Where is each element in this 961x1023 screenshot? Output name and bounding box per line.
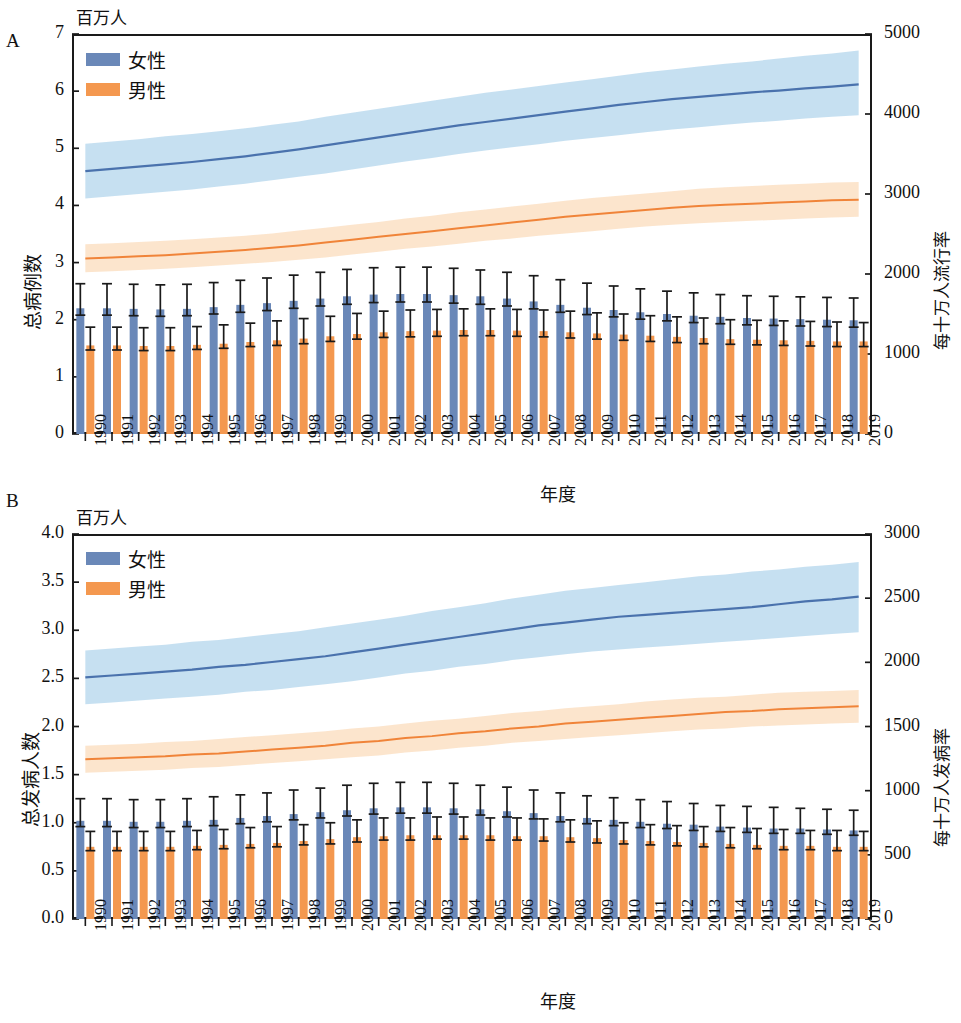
- x-axis-tick-label: 2017: [812, 414, 830, 446]
- x-axis-tick-label: 1995: [226, 414, 244, 446]
- x-axis-tick-label: 2015: [759, 414, 777, 446]
- x-axis-tick-label: 2018: [839, 414, 857, 446]
- x-axis-tick-label: 2008: [572, 899, 590, 931]
- y-axis-tick-label: 3: [12, 251, 64, 272]
- y2-axis-tick-label: 500: [884, 843, 911, 864]
- x-axis-tick-label: 2017: [812, 899, 830, 931]
- x-axis-tick-label: 1999: [332, 414, 350, 446]
- x-axis-tick-label: 1992: [146, 899, 164, 931]
- y-axis-tick-label: 0.5: [12, 859, 64, 880]
- x-axis-tick-label: 2013: [706, 414, 724, 446]
- x-axis-tick-label: 2012: [679, 899, 697, 931]
- y-axis-tick-label: 4: [12, 193, 64, 214]
- x-axis-tick-label: 2009: [599, 899, 617, 931]
- panel-b-graphics: [0, 487, 961, 1023]
- x-axis-tick-label: 2015: [759, 899, 777, 931]
- x-axis-tick-label: 2010: [626, 414, 644, 446]
- x-axis-tick-label: 2012: [679, 414, 697, 446]
- x-axis-tick-label: 2006: [519, 414, 537, 446]
- y-axis-tick-label: 1: [12, 365, 64, 386]
- x-axis-tick-label: 1990: [92, 899, 110, 931]
- x-axis-tick-label: 2003: [439, 414, 457, 446]
- y2-axis-tick-label: 4000: [884, 102, 920, 123]
- x-axis-tick-label: 1997: [279, 414, 297, 446]
- x-axis-tick-label: 1996: [252, 414, 270, 446]
- x-axis-tick-label: 2004: [466, 414, 484, 446]
- x-axis-tick-label: 2006: [519, 899, 537, 931]
- x-axis-tick-label: 2001: [386, 899, 404, 931]
- x-axis-tick-label: 1998: [306, 414, 324, 446]
- y2-axis-tick-label: 2000: [884, 650, 920, 671]
- x-axis-tick-label: 2018: [839, 899, 857, 931]
- y2-axis-tick-label: 2000: [884, 262, 920, 283]
- x-axis-tick-label: 2016: [786, 899, 804, 931]
- x-axis-tick-label: 2004: [466, 899, 484, 931]
- y-axis-tick-label: 3.0: [12, 618, 64, 639]
- y-axis-tick-label: 0: [12, 422, 64, 443]
- x-axis-tick-label: 1997: [279, 899, 297, 931]
- x-axis-tick-label: 1991: [119, 414, 137, 446]
- y-axis-tick-label: 1.5: [12, 763, 64, 784]
- x-axis-tick-label: 1994: [199, 414, 217, 446]
- x-axis-tick-label: 1990: [92, 414, 110, 446]
- x-axis-tick-label: 2001: [386, 414, 404, 446]
- y2-axis-tick-label: 3000: [884, 182, 920, 203]
- y2-axis-tick-label: 1000: [884, 779, 920, 800]
- x-axis-tick-label: 2003: [439, 899, 457, 931]
- y2-axis-tick-label: 1500: [884, 715, 920, 736]
- x-axis-tick-label: 2000: [359, 899, 377, 931]
- x-axis-tick-label: 2000: [359, 414, 377, 446]
- y-axis-tick-label: 6: [12, 79, 64, 100]
- y2-axis-tick-label: 1000: [884, 342, 920, 363]
- y-axis-tick-label: 7: [12, 22, 64, 43]
- x-axis-tick-label: 2011: [652, 900, 670, 931]
- x-axis-tick-label: 1995: [226, 899, 244, 931]
- x-axis-tick-label: 1991: [119, 899, 137, 931]
- x-axis-tick-label: 2002: [412, 899, 430, 931]
- x-axis-tick-label: 1996: [252, 899, 270, 931]
- y-axis-tick-label: 0.0: [12, 907, 64, 928]
- x-axis-tick-label: 1993: [172, 414, 190, 446]
- y-axis-tick-label: 2.5: [12, 666, 64, 687]
- y-axis-tick-label: 1.0: [12, 811, 64, 832]
- x-axis-tick-label: 2005: [492, 899, 510, 931]
- panel-b: B 百万人 总发病人数 每十万人发病率 年度 女性 男性 0.00.51.01.…: [0, 487, 961, 1023]
- y2-axis-tick-label: 3000: [884, 522, 920, 543]
- x-axis-tick-label: 2019: [866, 899, 884, 931]
- y-axis-tick-label: 4.0: [12, 522, 64, 543]
- y-axis-tick-label: 3.5: [12, 570, 64, 591]
- y2-axis-tick-label: 2500: [884, 586, 920, 607]
- x-axis-tick-label: 2014: [732, 414, 750, 446]
- x-axis-tick-label: 1993: [172, 899, 190, 931]
- x-axis-tick-label: 1998: [306, 899, 324, 931]
- x-axis-tick-label: 2010: [626, 899, 644, 931]
- x-axis-tick-label: 1994: [199, 899, 217, 931]
- x-axis-tick-label: 2016: [786, 414, 804, 446]
- x-axis-tick-label: 1992: [146, 414, 164, 446]
- x-axis-tick-label: 1999: [332, 899, 350, 931]
- y2-axis-tick-label: 0: [884, 422, 893, 443]
- y-axis-tick-label: 2: [12, 308, 64, 329]
- y-axis-tick-label: 5: [12, 136, 64, 157]
- x-axis-tick-label: 2007: [546, 414, 564, 446]
- x-axis-tick-label: 2014: [732, 899, 750, 931]
- x-axis-tick-label: 2005: [492, 414, 510, 446]
- x-axis-tick-label: 2007: [546, 899, 564, 931]
- x-axis-tick-label: 2011: [652, 415, 670, 446]
- x-axis-tick-label: 2019: [866, 414, 884, 446]
- x-axis-tick-label: 2002: [412, 414, 430, 446]
- x-axis-tick-label: 2008: [572, 414, 590, 446]
- y-axis-tick-label: 2.0: [12, 715, 64, 736]
- y2-axis-tick-label: 5000: [884, 22, 920, 43]
- x-axis-tick-label: 2009: [599, 414, 617, 446]
- x-axis-tick-label: 2013: [706, 899, 724, 931]
- y2-axis-tick-label: 0: [884, 907, 893, 928]
- panel-a: A 百万人 总病例数 每十万人流行率 年度 女性 男性 012345670100…: [0, 0, 961, 500]
